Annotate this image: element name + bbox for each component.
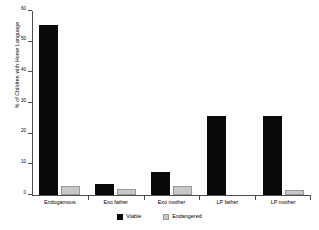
bar-group [39, 11, 80, 195]
legend-label: Endangered [172, 214, 201, 219]
bar-viable[interactable] [263, 116, 282, 195]
y-axis-tick-label: 0 [23, 191, 26, 196]
legend-swatch-endangered [163, 214, 169, 220]
bar-viable[interactable] [207, 116, 226, 195]
legend-item[interactable]: Viable [117, 214, 141, 220]
y-axis-tick: 30 [28, 102, 32, 103]
y-axis-tick: 20 [28, 133, 32, 134]
bar-group [95, 11, 136, 195]
y-axis-tick: 40 [28, 71, 32, 72]
bar-group [207, 11, 248, 195]
bar-viable[interactable] [39, 25, 58, 195]
bar-group [263, 11, 304, 195]
bar-group [151, 11, 192, 195]
bar-viable[interactable] [151, 172, 170, 195]
x-axis-line [32, 195, 311, 196]
chart-legend: ViableEndangered [0, 214, 319, 220]
y-axis-tick-label: 20 [21, 129, 26, 134]
bar-endangered[interactable] [285, 190, 304, 195]
legend-label: Viable [126, 214, 141, 219]
y-axis-tick: 60 [28, 10, 32, 11]
bar-endangered[interactable] [61, 186, 80, 195]
y-axis-tick: 0 [28, 194, 32, 195]
plot-area: 0102030405060 EndogamousExo fatherExo mo… [32, 11, 311, 196]
y-axis-tick-label: 60 [21, 7, 26, 12]
y-axis-tick-label: 40 [21, 68, 26, 73]
x-axis-category-label: LP mother [243, 200, 319, 205]
legend-swatch-viable [117, 214, 123, 220]
y-axis-title: % of Children with Home Language [14, 0, 20, 140]
y-axis-tick: 50 [28, 41, 32, 42]
y-axis-tick-label: 30 [21, 99, 26, 104]
bar-endangered[interactable] [117, 189, 136, 195]
bar-endangered[interactable] [173, 186, 192, 195]
y-axis-tick: 10 [28, 163, 32, 164]
legend-item[interactable]: Endangered [163, 214, 201, 220]
y-axis-tick-label: 10 [21, 160, 26, 165]
y-axis-tick-label: 50 [21, 37, 26, 42]
y-axis-line [32, 11, 33, 196]
bar-chart: % of Children with Home Language 0102030… [0, 0, 319, 230]
bar-viable[interactable] [95, 184, 114, 195]
